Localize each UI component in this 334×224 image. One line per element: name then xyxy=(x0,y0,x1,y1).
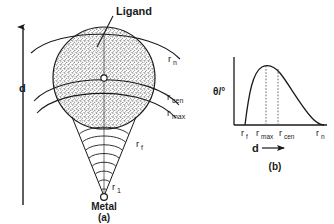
chart-x-axis-label-group: d xyxy=(252,142,284,154)
rn-label-base: r xyxy=(168,53,171,64)
rf-label: r f xyxy=(136,138,143,151)
panel-a: d xyxy=(19,5,186,223)
svg-text:r: r xyxy=(241,128,244,138)
tick-rmax: r max xyxy=(256,128,274,140)
rn-label-sub: n xyxy=(173,59,177,66)
rmax-label-base: r xyxy=(167,107,170,118)
svg-text:r: r xyxy=(279,128,282,138)
scientific-figure: d xyxy=(0,0,334,224)
tick-rcen: r cen xyxy=(279,128,295,140)
distance-axis-label: d xyxy=(19,82,26,94)
metal-label: Metal xyxy=(91,201,117,212)
rmax-label: r max xyxy=(167,107,186,120)
figure-container: d xyxy=(0,0,334,224)
chart-y-axis-label: θ/° xyxy=(213,86,225,97)
rcen-label: r cen xyxy=(167,91,183,104)
svg-text:f: f xyxy=(246,133,248,140)
rcen-label-base: r xyxy=(167,91,170,102)
r1-label-sub: 1 xyxy=(117,187,121,194)
panel-b: θ/° r f r max r cen r n d xyxy=(213,57,327,172)
caption-a: (a) xyxy=(98,212,110,223)
tick-rf: r f xyxy=(241,128,248,140)
svg-text:r: r xyxy=(316,128,319,138)
svg-text:r: r xyxy=(256,128,259,138)
r1-label: r 1 xyxy=(112,181,121,194)
rcen-label-sub: cen xyxy=(172,97,183,104)
rf-label-base: r xyxy=(136,138,139,149)
theta-curve xyxy=(245,66,324,125)
svg-text:cen: cen xyxy=(284,133,295,140)
caption-b: (b) xyxy=(269,161,282,172)
chart-x-axis-label: d xyxy=(252,142,259,154)
ligand-label: Ligand xyxy=(116,5,152,17)
chart-x-ticks: r f r max r cen r n xyxy=(241,128,325,140)
metal-atom-circle xyxy=(101,194,108,201)
svg-text:n: n xyxy=(321,133,325,140)
sphere-center-dot xyxy=(101,75,107,81)
distance-axis: d xyxy=(19,27,26,205)
tick-rn: r n xyxy=(316,128,325,140)
svg-text:max: max xyxy=(261,133,274,140)
ligand-cone xyxy=(72,117,136,200)
rf-label-sub: f xyxy=(141,144,143,151)
rmax-label-sub: max xyxy=(172,113,186,120)
r1-label-base: r xyxy=(112,181,115,192)
